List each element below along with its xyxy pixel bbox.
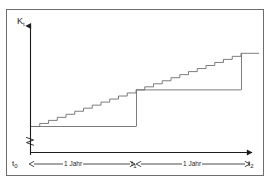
x-tick-t2-subscript: 2 [250, 163, 253, 169]
year1-series [31, 90, 137, 127]
year1-span-label: 1 Jahr [63, 161, 83, 168]
y-axis-label-subscript: t [23, 21, 25, 27]
capital-step-chart [0, 0, 271, 184]
year2-staircase [136, 53, 241, 90]
year1-staircase [31, 90, 136, 127]
x-tick-label-t2: t2 [248, 160, 254, 168]
y-axis-label: Kt [17, 17, 25, 26]
year2-series [136, 53, 259, 90]
x-tick-t0-subscript: 0 [14, 163, 17, 169]
x-tick-t1-subscript: 1 [133, 163, 136, 169]
axis-break-squiggle-icon [27, 138, 34, 146]
x-tick-label-t0: t0 [12, 160, 18, 168]
year2-span-label: 1 Jahr [182, 161, 202, 168]
x-tick-label-t1: t1 [131, 160, 137, 168]
screenshot-root: Kt t0 t1 t2 1 Jahr 1 Jahr [0, 0, 271, 184]
